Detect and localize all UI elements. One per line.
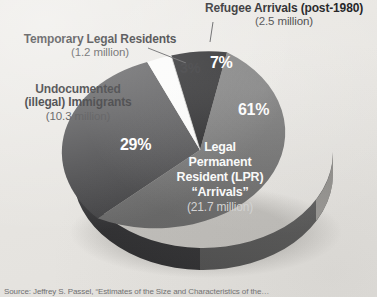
slice-value-refugee: 7% (210, 54, 233, 72)
callout-undocumented-title-line1: Undocumented (2, 83, 154, 96)
slice-value-lpr: 61% (238, 101, 269, 119)
callout-undocumented: Undocumented (illegal) Immigrants (10.3 … (2, 83, 154, 123)
callout-temporary: Temporary Legal Residents (1.2 million) (6, 33, 194, 59)
slice-label-lpr-line4: “Arrivals” (154, 185, 286, 200)
callout-refugee: Refugee Arrivals (post-1980) (2.5 millio… (192, 2, 376, 28)
callout-temporary-title: Temporary Legal Residents (6, 33, 194, 46)
slice-label-lpr: Legal Permanent Resident (LPR) “Arrivals… (154, 140, 286, 214)
slice-value-temporary: 3% (180, 60, 200, 76)
callout-refugee-amount: (2.5 million) (192, 15, 376, 28)
slice-value-undocumented: 29% (120, 136, 151, 154)
callout-refugee-title: Refugee Arrivals (post-1980) (192, 2, 376, 15)
callout-undocumented-amount: (10.3 million) (2, 110, 154, 123)
source-note: Source: Jeffrey S. Passel, “Estimates of… (4, 287, 376, 296)
slice-label-lpr-line2: Permanent (154, 155, 286, 170)
chart-canvas: Refugee Arrivals (post-1980) (2.5 millio… (0, 0, 377, 297)
slice-label-lpr-amount: (21.7 million) (154, 200, 286, 214)
callout-temporary-amount: (1.2 million) (6, 46, 194, 59)
slice-label-lpr-line3: Resident (LPR) (154, 170, 286, 185)
callout-undocumented-title-line2: (illegal) Immigrants (2, 96, 154, 109)
slice-label-lpr-line1: Legal (154, 140, 286, 155)
